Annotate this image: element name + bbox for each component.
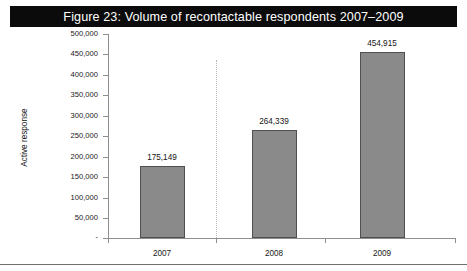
x-axis-line xyxy=(108,238,455,239)
y-axis-zero-label: - xyxy=(36,232,98,241)
y-axis-tick-label: 500,000 xyxy=(36,29,98,38)
y-axis-tick-label: 150,000 xyxy=(36,172,98,181)
x-axis-category-label: 2008 xyxy=(239,249,309,258)
figure-title: Figure 23: Volume of recontactable respo… xyxy=(63,10,403,24)
y-axis-tick-label-wrap: 200,000 xyxy=(36,152,98,162)
y-axis-tick-label: 200,000 xyxy=(36,152,98,161)
y-axis-tick-label: 50,000 xyxy=(36,213,98,222)
y-axis-tick xyxy=(103,54,108,55)
y-axis-tick-label-wrap: - xyxy=(36,232,98,242)
bar-value-label-2008: 264,339 xyxy=(234,117,314,126)
bar-2007 xyxy=(140,166,185,238)
bar-2008 xyxy=(252,130,297,238)
series-separator-line xyxy=(216,60,218,238)
y-axis-tick-label: 400,000 xyxy=(36,70,98,79)
y-axis-tick xyxy=(103,157,108,158)
bar-2009 xyxy=(360,52,405,238)
y-axis-tick-label: 450,000 xyxy=(36,49,98,58)
y-axis-tick xyxy=(103,116,108,117)
y-axis-tick xyxy=(103,75,108,76)
y-axis-tick-label-wrap: 400,000 xyxy=(36,70,98,80)
x-axis-category-label: 2009 xyxy=(347,249,417,258)
x-axis-category-label: 2007 xyxy=(127,249,197,258)
y-axis-title: Active response xyxy=(20,88,29,188)
y-axis-tick-label-wrap: 450,000 xyxy=(36,49,98,59)
y-axis-tick-label-wrap: 50,000 xyxy=(36,213,98,223)
x-axis-tick xyxy=(216,238,217,243)
footer-divider xyxy=(0,264,467,265)
y-axis-line xyxy=(108,34,109,238)
y-axis-tick xyxy=(103,198,108,199)
y-axis-tick-label-wrap: 500,000 xyxy=(36,29,98,39)
x-axis-tick xyxy=(108,238,109,243)
y-axis-tick-label-wrap: 300,000 xyxy=(36,111,98,121)
y-axis-tick-label-wrap: 100,000 xyxy=(36,193,98,203)
y-axis-tick xyxy=(103,136,108,137)
y-axis-tick-label: 350,000 xyxy=(36,90,98,99)
bar-value-label-2009: 454,915 xyxy=(342,39,422,48)
y-axis-tick xyxy=(103,34,108,35)
figure-title-banner: Figure 23: Volume of recontactable respo… xyxy=(10,6,457,27)
x-axis-tick xyxy=(455,238,456,243)
y-axis-tick xyxy=(103,218,108,219)
y-axis-tick xyxy=(103,95,108,96)
y-axis-tick-label-wrap: 250,000 xyxy=(36,131,98,141)
bar-chart: Active response 500,000 450,000 400,000 … xyxy=(0,27,467,259)
y-axis-tick-label: 100,000 xyxy=(36,193,98,202)
bar-value-label-2007: 175,149 xyxy=(122,153,202,162)
y-axis-tick-label-wrap: 350,000 xyxy=(36,90,98,100)
y-axis-tick-label: 300,000 xyxy=(36,111,98,120)
x-axis-tick xyxy=(325,238,326,243)
y-axis-tick xyxy=(103,177,108,178)
y-axis-tick-label: 250,000 xyxy=(36,131,98,140)
y-axis-tick-label-wrap: 150,000 xyxy=(36,172,98,182)
